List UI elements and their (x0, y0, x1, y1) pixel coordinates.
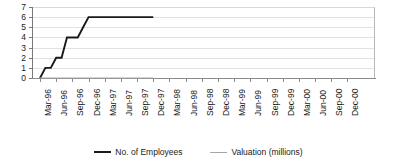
legend-line-swatch (210, 152, 227, 153)
x-axis-tick-label: Sep-97 (141, 89, 150, 116)
x-axis-tick-label: Mar-00 (303, 89, 312, 116)
x-axis-tick-label: Jun-99 (254, 90, 263, 116)
x-axis-tick-label: Mar-98 (173, 89, 182, 116)
x-axis-tick-label: Jun-98 (190, 90, 199, 116)
chart-legend: No. of EmployeesValuation (millions) (0, 145, 397, 159)
x-axis-tick-label: Jun-97 (125, 90, 134, 116)
y-axis-tick-label: 7 (0, 3, 26, 12)
x-axis-tick-label: Jun-00 (319, 90, 328, 116)
legend-item[interactable]: No. of Employees (94, 148, 182, 157)
x-axis-tick-mark (283, 79, 284, 82)
data-series-layer (32, 7, 375, 79)
x-axis-tick-mark (121, 79, 122, 82)
x-axis-tick-mark (347, 79, 348, 82)
y-axis-tick-label: 2 (0, 54, 26, 63)
x-axis-tick-label: Sep-96 (76, 89, 85, 116)
x-axis-tick-label: Sep-00 (335, 89, 344, 116)
legend-item[interactable]: Valuation (millions) (210, 148, 302, 157)
x-axis-tick-mark (56, 79, 57, 82)
x-axis-tick-label: Dec-00 (351, 89, 360, 116)
x-axis-tick-label: Dec-99 (287, 89, 296, 116)
y-axis-tick-label: 4 (0, 33, 26, 42)
y-axis-tick-label: 3 (0, 44, 26, 53)
x-axis-tick-mark (105, 79, 106, 82)
legend-label: No. of Employees (115, 148, 182, 157)
x-axis-tick-label: Mar-97 (109, 89, 118, 116)
y-axis-tick-label: 6 (0, 13, 26, 22)
y-axis-tick-label: 1 (0, 64, 26, 73)
x-axis-tick-mark (169, 79, 170, 82)
x-axis-tick-label: Sep-99 (271, 89, 280, 116)
x-axis-tick-mark (234, 79, 235, 82)
legend-label: Valuation (millions) (231, 148, 302, 157)
x-axis-tick-mark (153, 79, 154, 82)
x-axis-tick-label: Dec-98 (222, 89, 231, 116)
y-axis-tick-labels: 01234567 (0, 0, 30, 164)
x-axis-tick-mark (72, 79, 73, 82)
y-axis-tick-label: 0 (0, 74, 26, 83)
x-axis-tick-label: Mar-99 (238, 89, 247, 116)
x-axis-tick-mark (331, 79, 332, 82)
x-axis-tick-label: Mar-96 (44, 89, 53, 116)
x-axis-tick-mark (218, 79, 219, 82)
series-line (40, 17, 153, 78)
x-axis-tick-label: Jun-96 (60, 90, 69, 116)
x-axis-tick-mark (40, 79, 41, 82)
x-axis-tick-label: Dec-96 (93, 89, 102, 116)
y-axis-tick-label: 5 (0, 23, 26, 32)
x-axis-tick-mark (250, 79, 251, 82)
x-axis-tick-mark (186, 79, 187, 82)
x-axis-tick-mark (202, 79, 203, 82)
employee-valuation-line-chart: 01234567 Mar-96Jun-96Sep-96Dec-96Mar-97J… (0, 0, 397, 164)
x-axis-tick-mark (267, 79, 268, 82)
legend-line-swatch (94, 151, 111, 153)
x-axis-tick-mark (89, 79, 90, 82)
x-axis-tick-label: Sep-98 (206, 89, 215, 116)
x-axis-tick-mark (299, 79, 300, 82)
x-axis-tick-mark (315, 79, 316, 82)
x-axis-tick-label: Dec-97 (157, 89, 166, 116)
x-axis-tick-mark (137, 79, 138, 82)
